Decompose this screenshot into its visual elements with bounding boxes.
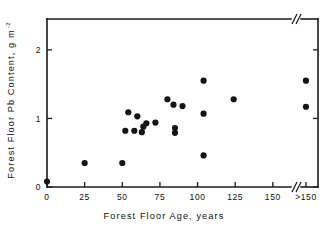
x-tick-label: 125 <box>227 192 243 202</box>
y-axis-title-group: Forest Floor Pb Content, g m -2 <box>4 22 16 179</box>
data-point <box>82 160 88 166</box>
data-point <box>164 96 170 102</box>
data-point <box>200 111 206 117</box>
x-tick-label: 0 <box>44 192 49 202</box>
data-point <box>200 78 206 84</box>
data-point <box>44 178 50 184</box>
x-tick-label: >150 <box>295 192 317 202</box>
data-point <box>131 128 137 134</box>
x-tick-label: 100 <box>190 192 206 202</box>
data-point <box>152 119 158 125</box>
x-tick-label: 75 <box>155 192 166 202</box>
data-point <box>170 102 176 108</box>
data-point <box>122 128 128 134</box>
data-point <box>179 103 185 109</box>
x-tick-label: 25 <box>79 192 90 202</box>
y-axis-title: Forest Floor Pb Content, g m <box>6 29 16 178</box>
data-point <box>200 152 206 158</box>
x-tick-label: 50 <box>117 192 128 202</box>
x-axis-title: Forest Floor Age, years <box>104 211 225 221</box>
y-tick-label: 1 <box>36 114 41 124</box>
y-axis-title-exponent: -2 <box>4 22 11 28</box>
data-point <box>303 104 309 110</box>
y-tick-label: 2 <box>36 45 41 55</box>
data-point <box>139 129 145 135</box>
plot-svg: 0255075100125150>150 012 Forest Floor Ag… <box>0 0 328 226</box>
y-tick-label: 0 <box>36 182 41 192</box>
data-point <box>134 113 140 119</box>
data-point <box>119 160 125 166</box>
data-point <box>125 109 131 115</box>
data-point <box>303 78 309 84</box>
data-point <box>231 96 237 102</box>
data-point <box>172 130 178 136</box>
scatter-plot-figure: 0255075100125150>150 012 Forest Floor Ag… <box>0 0 328 226</box>
x-tick-label: 150 <box>265 192 281 202</box>
data-point <box>143 120 149 126</box>
